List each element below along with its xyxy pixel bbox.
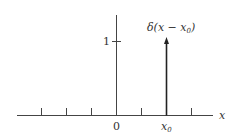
origin-label: 0 — [113, 120, 120, 133]
impulse-label: δ(x − x0) — [147, 21, 195, 35]
y-tick-label: 1 — [103, 35, 110, 48]
shift-label: x0 — [161, 120, 172, 134]
impulse-arrowhead-icon — [164, 37, 169, 44]
delta-function-diagram: δ(x − x0) 1 0 x0 x — [0, 0, 235, 139]
x-axis-label: x — [219, 109, 226, 122]
